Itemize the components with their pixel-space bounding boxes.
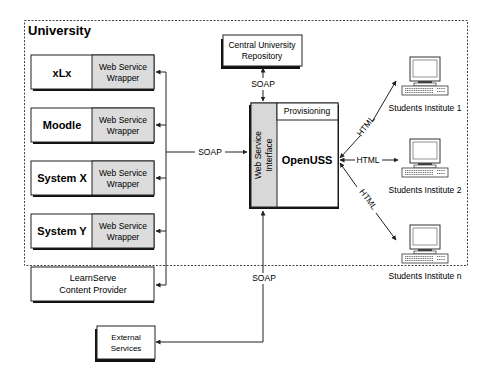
soap-label-bottom: SOAP	[252, 273, 276, 283]
system-box-system-y[interactable]: System Y Web Service Wrapper	[31, 214, 154, 250]
system-box-system-x[interactable]: System X Web Service Wrapper	[31, 161, 154, 197]
soap-bus-left	[156, 72, 247, 285]
html-label-1: HTML	[355, 114, 377, 139]
system-name: System X	[37, 172, 87, 184]
wrapper-label-line1: Web Service	[99, 115, 147, 125]
content-provider-line1: LearnServe	[70, 273, 117, 283]
content-provider-box[interactable]: LearnServe Content Provider	[31, 267, 154, 303]
wrapper-label-line1: Web Service	[99, 62, 147, 72]
computer-icon	[402, 139, 448, 177]
content-provider-line2: Content Provider	[59, 285, 127, 295]
architecture-diagram: University xLx Web Service Wrapper Moodl…	[0, 0, 489, 381]
provisioning-label: Provisioning	[284, 106, 331, 116]
wrapper-label-line2: Wrapper	[107, 73, 140, 83]
wrapper-label-line2: Wrapper	[107, 232, 140, 242]
university-label: University	[28, 23, 92, 38]
openuss-box[interactable]: Provisioning OpenUSS Web Service Interfa…	[249, 103, 339, 209]
external-services-box[interactable]: External Services	[95, 326, 155, 362]
interface-label-line2: Interface	[264, 138, 274, 171]
system-name: System Y	[37, 225, 87, 237]
wrapper-label-line1: Web Service	[99, 221, 147, 231]
soap-link-bottom	[156, 211, 263, 342]
wrapper-label-line1: Web Service	[99, 168, 147, 178]
external-services-line2: Services	[111, 344, 142, 353]
system-box-moodle[interactable]: Moodle Web Service Wrapper	[31, 108, 154, 144]
client-students-institute-2[interactable]: Students Institute 2	[389, 139, 462, 195]
wrapper-label-line2: Wrapper	[107, 126, 140, 136]
repository-line2: Repository	[242, 51, 283, 61]
wrapper-label-line2: Wrapper	[107, 179, 140, 189]
computer-icon	[402, 57, 448, 95]
soap-label-left: SOAP	[198, 147, 222, 157]
client-students-institute-n[interactable]: Students Institute n	[389, 225, 462, 281]
client-students-institute-1[interactable]: Students Institute 1	[389, 57, 462, 113]
system-box-xlx[interactable]: xLx Web Service Wrapper	[31, 55, 154, 91]
interface-label-line1: Web Service	[253, 131, 263, 179]
html-label-n: HTML	[357, 187, 379, 212]
computer-icon	[402, 225, 448, 263]
central-repository-box[interactable]: Central University Repository	[221, 35, 302, 69]
html-label-2: HTML	[356, 155, 379, 165]
soap-label-top: SOAP	[251, 79, 275, 89]
system-name: Moodle	[43, 119, 82, 131]
openuss-label: OpenUSS	[282, 154, 333, 166]
repository-line1: Central University	[228, 40, 296, 50]
client-label: Students Institute 1	[389, 103, 462, 113]
system-name: xLx	[53, 67, 73, 79]
client-label: Students Institute 2	[389, 185, 462, 195]
external-services-line1: External	[111, 333, 141, 342]
client-label: Students Institute n	[389, 271, 462, 281]
